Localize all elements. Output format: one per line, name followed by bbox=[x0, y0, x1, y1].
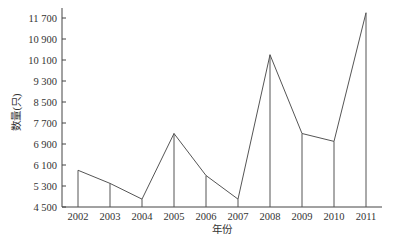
x-tick-label: 2008 bbox=[260, 211, 281, 222]
y-tick-label: 4 500 bbox=[33, 202, 57, 213]
x-tick-label: 2003 bbox=[100, 211, 121, 222]
x-tick-label: 2010 bbox=[324, 211, 345, 222]
y-tick-label: 7 700 bbox=[33, 118, 57, 129]
y-tick-label: 8 500 bbox=[33, 97, 57, 108]
y-tick-label: 6 900 bbox=[33, 139, 57, 150]
y-tick-label: 6 100 bbox=[33, 160, 57, 171]
y-tick-label: 10 100 bbox=[28, 55, 57, 66]
y-tick-label: 10 900 bbox=[28, 34, 57, 45]
x-tick-label: 2011 bbox=[356, 211, 377, 222]
y-axis-title: 数量(只) bbox=[10, 93, 23, 130]
y-tick-label: 9 300 bbox=[33, 76, 57, 87]
line-chart: 4 5005 3006 1006 9007 7008 5009 30010 10… bbox=[0, 0, 394, 245]
y-tick-label: 11 700 bbox=[29, 13, 58, 24]
x-tick-label: 2006 bbox=[196, 211, 217, 222]
x-tick-label: 2009 bbox=[292, 211, 313, 222]
data-line bbox=[78, 13, 366, 199]
x-tick-label: 2007 bbox=[228, 211, 249, 222]
plot-area: 4 5005 3006 1006 9007 7008 5009 30010 10… bbox=[28, 8, 382, 222]
x-axis-title: 年份 bbox=[212, 223, 233, 235]
x-tick-label: 2005 bbox=[164, 211, 185, 222]
x-tick-label: 2002 bbox=[68, 211, 89, 222]
y-tick-label: 5 300 bbox=[33, 181, 57, 192]
x-tick-label: 2004 bbox=[132, 211, 154, 222]
